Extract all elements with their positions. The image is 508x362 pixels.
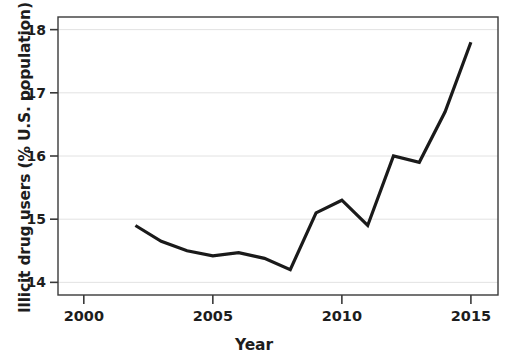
x-tick-label: 2015 [451,308,491,324]
x-tick-label: 2010 [322,308,362,324]
y-tick-label: 18 [27,22,46,38]
x-axis-ticks: 2000200520102015 [64,295,491,324]
chart-figure: Illicit drug users (% U.S. population) 1… [0,0,508,362]
y-tick-label: 15 [27,211,46,227]
y-tick-label: 14 [27,274,47,290]
x-tick-label: 2000 [64,308,104,324]
line-chart-plot: 1415161718 2000200520102015 [0,0,508,362]
x-tick-label: 2005 [193,308,233,324]
x-axis-label: Year [0,336,508,354]
y-tick-label: 16 [27,148,46,164]
y-tick-label: 17 [27,85,46,101]
y-axis-ticks: 1415161718 [27,22,58,291]
grid-lines [58,30,498,283]
